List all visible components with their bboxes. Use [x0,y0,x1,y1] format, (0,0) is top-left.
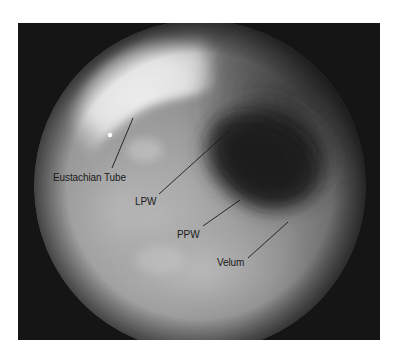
label-ppw: PPW [177,229,199,240]
label-velum: Velum [217,257,244,268]
label-lpw: LPW [135,196,156,207]
label-eustachian-tube: Eustachian Tube [53,172,126,183]
